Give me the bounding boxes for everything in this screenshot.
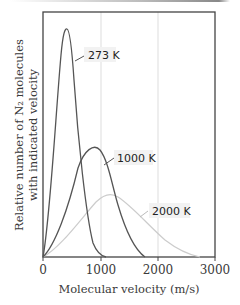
xtick-1000: 1000 [86,263,117,277]
curve-273k [43,29,106,257]
y-axis-label-line1: Relative number of N₂ molecules [12,39,26,231]
x-axis-label: Molecular velocity (m/s) [58,282,199,296]
label-2000k: 2000 K [152,205,191,218]
leader-2000k [140,211,148,217]
plot-frame [43,12,215,257]
y-axis-label-line2: with indicated velocity [26,68,40,201]
xtick-2000: 2000 [143,263,174,277]
xtick-3000: 3000 [200,263,231,277]
xtick-0: 0 [39,263,47,277]
velocity-distribution-chart: 273 K 1000 K 2000 K 0 1000 2000 3000 Mol… [0,0,240,305]
label-1000k: 1000 K [117,152,156,165]
label-273k: 273 K [88,49,120,62]
leader-273k [75,56,84,61]
